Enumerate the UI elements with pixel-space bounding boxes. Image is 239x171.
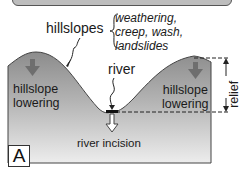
hillslope-lowering-right-label: hillslope lowering — [162, 83, 209, 111]
label-line: lowering — [162, 97, 209, 111]
processes-list: weathering, creep, wash, landslides — [115, 11, 183, 53]
hillslope-lowering-left-label: hillslope lowering — [13, 82, 60, 110]
relief-label: relief — [228, 81, 239, 108]
river-channel — [106, 110, 118, 113]
process-creep-wash: creep, wash, — [115, 25, 183, 39]
label-line: hillslope — [162, 83, 209, 97]
label-line: hillslope — [13, 82, 60, 96]
hillslopes-leader-line — [68, 38, 80, 64]
process-weathering: weathering, — [115, 11, 183, 25]
hillslopes-label: hillslopes — [46, 21, 104, 35]
panel-label: A — [8, 145, 30, 167]
relief-arrow-up-icon — [223, 58, 229, 64]
landscape-diagram: hillslopes weathering, creep, wash, land… — [0, 0, 239, 171]
river-label: river — [108, 62, 135, 76]
river-incision-label: river incision — [77, 138, 141, 150]
process-landslides: landslides — [115, 39, 183, 53]
label-line: lowering — [13, 96, 60, 110]
river-leader-line — [110, 78, 114, 108]
